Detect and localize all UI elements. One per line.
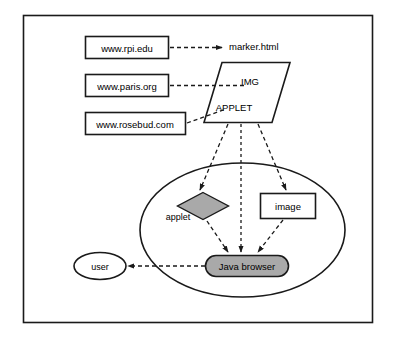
user-actor-label: user [91,262,109,272]
url-box-rpi-label: www.rpi.edu [100,43,153,54]
diagram-canvas: www.rpi.edu www.paris.org www.rosebud.co… [0,0,395,338]
applet-object-label: applet [166,212,191,222]
url-box-rosebud-label: www.rosebud.com [95,119,174,130]
java-browser-label: Java browser [219,261,276,272]
url-box-paris-label: www.paris.org [96,81,157,92]
diagram-svg: www.rpi.edu www.paris.org www.rosebud.co… [0,0,395,338]
marker-document-title: marker.html [229,41,279,52]
image-object-label: image [275,201,301,212]
